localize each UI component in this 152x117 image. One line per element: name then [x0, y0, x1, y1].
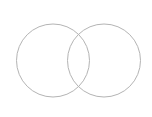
- right-circle: [68, 24, 141, 97]
- venn-diagram: [0, 0, 152, 117]
